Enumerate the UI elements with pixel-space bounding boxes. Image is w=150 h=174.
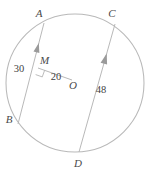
geometry-figure-container: A C M B D O 30 20 48 [0,0,150,174]
point-label-o: O [69,79,77,91]
measure-chord-ab: 30 [14,63,25,74]
congruence-tick-cd-icon [101,54,108,65]
circle-geometry-diagram: A C M B D O 30 20 48 [0,0,150,174]
measure-chord-cd: 48 [96,84,107,95]
point-label-b: B [6,113,13,125]
measure-om: 20 [51,71,62,82]
right-angle-icon [36,70,45,77]
point-label-a: A [35,7,43,19]
point-label-c: C [108,7,116,19]
point-label-d: D [73,157,82,169]
congruence-tick-ab-icon [34,43,40,53]
point-label-m: M [39,54,50,66]
